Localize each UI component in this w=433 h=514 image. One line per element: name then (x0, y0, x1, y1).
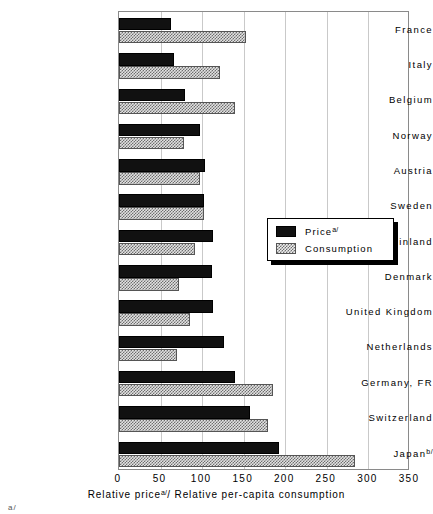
x-tick-label-100: 100 (191, 474, 212, 484)
x-tick-label-200: 200 (274, 474, 295, 484)
category-label-austria: Austria (321, 166, 433, 176)
bar-price (119, 53, 174, 66)
footnote-marker: a/ (8, 503, 17, 512)
category-label-sweden: Sweden (321, 201, 433, 211)
category-label-text: Netherlands (366, 341, 433, 352)
x-tick-label-350: 350 (399, 474, 420, 484)
bar-price (119, 442, 279, 455)
category-label-text: France (395, 24, 433, 35)
category-label-text: Austria (394, 165, 433, 176)
category-label-switzerland: Switzerland (321, 413, 433, 423)
legend-label-consumption-text: Consumption (305, 243, 373, 254)
bar-consumption (119, 172, 200, 185)
x-tick-label-300: 300 (357, 474, 378, 484)
x-axis-title-part2: / Relative per-capita consumption (167, 489, 345, 500)
bar-price (119, 159, 205, 172)
x-tick-label-50: 50 (153, 474, 167, 484)
category-label-belgium: Belgium (321, 95, 433, 105)
bar-consumption (119, 384, 273, 397)
bar-consumption (119, 419, 268, 432)
category-label-germany-fr: Germany, FR (321, 378, 433, 388)
bar-price (119, 265, 212, 278)
category-label-united-kingdom: United Kingdom (321, 307, 433, 317)
bar-price (119, 230, 213, 243)
x-tick-label-250: 250 (316, 474, 337, 484)
category-label-text: Sweden (390, 200, 433, 211)
legend: Pricea/ Consumption (267, 218, 394, 261)
bar-consumption (119, 207, 204, 220)
legend-label-price-text: Price (305, 226, 332, 237)
bar-consumption (119, 313, 190, 326)
bar-consumption (119, 66, 220, 79)
bar-consumption (119, 243, 195, 256)
category-label-text: Switzerland (368, 412, 433, 423)
legend-label-price-superscript: a/ (332, 226, 338, 233)
bar-consumption (119, 31, 246, 44)
bar-price (119, 371, 235, 384)
bar-price (119, 18, 171, 31)
category-label-text: Belgium (389, 94, 433, 105)
bar-price (119, 124, 200, 137)
x-axis-title: Relative pricea// Relative per-capita co… (0, 489, 433, 500)
bar-chart: FranceItalyBelgiumNorwayAustriaSwedenFin… (0, 0, 433, 514)
category-label-japan: Japanb/ (321, 448, 433, 459)
bar-price (119, 406, 250, 419)
category-label-text: Norway (392, 130, 433, 141)
legend-item-consumption: Consumption (276, 242, 373, 255)
category-label-france: France (321, 25, 433, 35)
x-tick-label-0: 0 (115, 474, 122, 484)
bar-consumption (119, 349, 177, 362)
x-tick-label-150: 150 (232, 474, 253, 484)
bar-price (119, 89, 185, 102)
x-axis-title-part1: Relative price (88, 489, 161, 500)
bar-consumption (119, 102, 235, 115)
gridline-150 (244, 12, 245, 469)
category-label-text: Denmark (385, 271, 433, 282)
category-label-netherlands: Netherlands (321, 342, 433, 352)
category-label-text: Italy (409, 59, 433, 70)
legend-item-price: Pricea/ (276, 225, 338, 238)
category-label-norway: Norway (321, 131, 433, 141)
bar-consumption (119, 455, 355, 468)
bar-consumption (119, 137, 184, 150)
legend-label-consumption: Consumption (305, 244, 373, 254)
category-label-text: Finland (392, 236, 433, 247)
category-label-text: United Kingdom (346, 306, 433, 317)
bar-consumption (119, 278, 179, 291)
legend-swatch-consumption (276, 243, 296, 254)
legend-swatch-price (276, 226, 296, 237)
category-label-denmark: Denmark (321, 272, 433, 282)
bar-price (119, 336, 224, 349)
category-label-italy: Italy (321, 60, 433, 70)
category-label-superscript: b/ (426, 448, 433, 455)
bar-price (119, 300, 213, 313)
category-label-text: Japan (393, 448, 426, 459)
legend-label-price: Pricea/ (305, 226, 338, 237)
bar-price (119, 194, 204, 207)
category-label-text: Germany, FR (361, 377, 433, 388)
